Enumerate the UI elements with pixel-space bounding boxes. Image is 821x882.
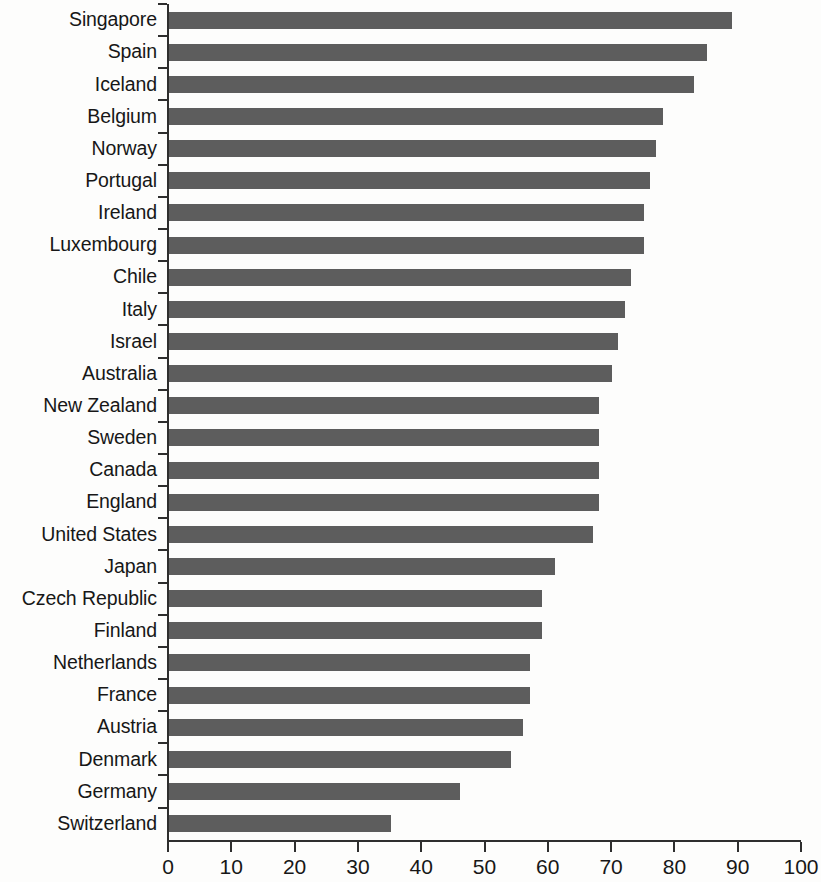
- bar: [169, 301, 625, 318]
- bar-track: [169, 325, 618, 357]
- plot-area: SingaporeSpainIcelandBelgiumNorwayPortug…: [0, 0, 821, 882]
- bar-track: [169, 261, 631, 293]
- y-axis-tick: [158, 164, 167, 166]
- bar-row: Singapore: [0, 4, 821, 36]
- bar: [169, 462, 599, 479]
- category-label: Israel: [7, 332, 167, 352]
- y-axis-tick: [158, 678, 167, 680]
- bar: [169, 204, 644, 221]
- bar-row: Czech Republic: [0, 583, 821, 615]
- bar-track: [169, 775, 460, 807]
- y-axis-tick: [158, 324, 167, 326]
- x-axis-tick: [294, 842, 296, 852]
- bar-rows: SingaporeSpainIcelandBelgiumNorwayPortug…: [0, 4, 821, 840]
- bar-track: [169, 486, 599, 518]
- bar: [169, 333, 618, 350]
- bar-row: Norway: [0, 133, 821, 165]
- bar-track: [169, 68, 694, 100]
- bar: [169, 429, 599, 446]
- bar-track: [169, 711, 523, 743]
- bar-track: [169, 4, 732, 36]
- category-label: Norway: [7, 139, 167, 159]
- bar: [169, 269, 631, 286]
- bar-chart: SingaporeSpainIcelandBelgiumNorwayPortug…: [0, 0, 821, 882]
- bar: [169, 12, 732, 29]
- x-axis-tick: [547, 842, 549, 852]
- bar-track: [169, 165, 650, 197]
- bar-track: [169, 808, 391, 840]
- x-axis-tick: [420, 842, 422, 852]
- bar: [169, 76, 694, 93]
- x-axis-tick: [484, 842, 486, 852]
- bar: [169, 558, 555, 575]
- category-label: Australia: [7, 364, 167, 384]
- category-label: France: [7, 685, 167, 705]
- bar-row: Denmark: [0, 743, 821, 775]
- bar-row: Belgium: [0, 100, 821, 132]
- y-axis-tick: [158, 228, 167, 230]
- bar: [169, 494, 599, 511]
- bar-track: [169, 615, 542, 647]
- category-label: Germany: [7, 782, 167, 802]
- bar-row: Italy: [0, 293, 821, 325]
- bar-track: [169, 100, 663, 132]
- y-axis-tick: [158, 357, 167, 359]
- bar: [169, 44, 707, 61]
- bar-track: [169, 743, 511, 775]
- bar: [169, 172, 650, 189]
- bar: [169, 815, 391, 832]
- bar-row: Germany: [0, 775, 821, 807]
- bar-track: [169, 358, 612, 390]
- x-axis-tick: [230, 842, 232, 852]
- bar-row: Netherlands: [0, 647, 821, 679]
- y-axis-tick: [158, 421, 167, 423]
- y-axis-tick: [158, 582, 167, 584]
- y-axis-tick: [158, 742, 167, 744]
- y-axis-tick: [158, 646, 167, 648]
- bar-track: [169, 133, 656, 165]
- category-label: Chile: [7, 267, 167, 287]
- category-label: Denmark: [7, 750, 167, 770]
- bar-row: Austria: [0, 711, 821, 743]
- category-label: Italy: [7, 300, 167, 320]
- bar: [169, 654, 530, 671]
- bar-track: [169, 583, 542, 615]
- y-axis-tick: [158, 710, 167, 712]
- category-label: Portugal: [7, 171, 167, 191]
- category-label: Ireland: [7, 203, 167, 223]
- bar-track: [169, 36, 707, 68]
- bar-track: [169, 518, 593, 550]
- bar-row: Finland: [0, 615, 821, 647]
- bar-track: [169, 422, 599, 454]
- y-axis-tick: [158, 807, 167, 809]
- y-axis-tick: [158, 774, 167, 776]
- bar-row: Iceland: [0, 68, 821, 100]
- bar: [169, 397, 599, 414]
- bar-row: France: [0, 679, 821, 711]
- bar: [169, 719, 523, 736]
- category-label: Czech Republic: [7, 589, 167, 609]
- y-axis-tick: [158, 292, 167, 294]
- bar: [169, 140, 656, 157]
- y-axis-tick: [158, 132, 167, 134]
- x-axis-tick: [673, 842, 675, 852]
- x-axis-tick: [800, 842, 802, 852]
- y-axis-tick: [158, 517, 167, 519]
- bar-row: Sweden: [0, 422, 821, 454]
- category-label: Belgium: [7, 107, 167, 127]
- bar-track: [169, 229, 644, 261]
- bar-track: [169, 679, 530, 711]
- category-label: United States: [7, 525, 167, 545]
- bar-row: Spain: [0, 36, 821, 68]
- bar-row: Australia: [0, 358, 821, 390]
- bar-row: Luxembourg: [0, 229, 821, 261]
- y-axis-tick: [158, 260, 167, 262]
- category-label: Sweden: [7, 428, 167, 448]
- bar: [169, 687, 530, 704]
- x-axis-ticks: 0102030405060708090100: [0, 840, 821, 882]
- category-label: Switzerland: [7, 814, 167, 834]
- category-label: Spain: [7, 42, 167, 62]
- bar: [169, 783, 460, 800]
- bar-row: New Zealand: [0, 390, 821, 422]
- bar-track: [169, 293, 625, 325]
